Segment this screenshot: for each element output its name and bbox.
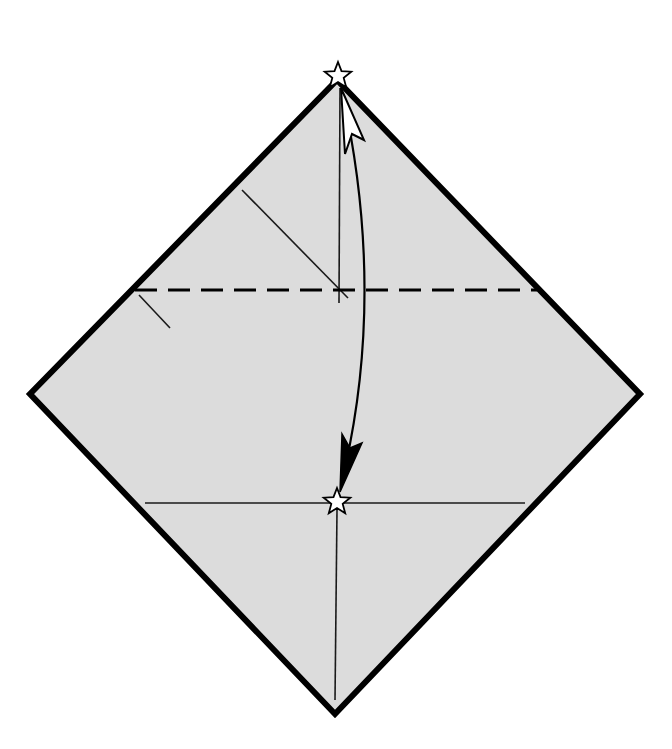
paper-square <box>30 80 640 714</box>
crease-vertical-upper <box>339 88 340 303</box>
diagram-canvas <box>0 0 672 749</box>
origami-diagram <box>0 0 672 749</box>
